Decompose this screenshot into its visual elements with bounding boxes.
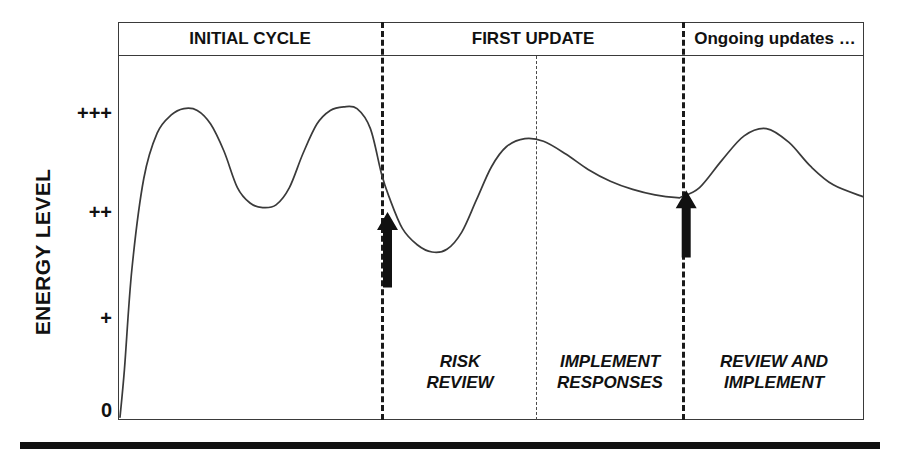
divider-initial-first	[381, 22, 384, 420]
header-band-separator	[118, 55, 864, 56]
y-axis-tick-labels: ++++++0	[0, 0, 112, 459]
subphase-label-risk-review: RISKREVIEW	[386, 352, 534, 393]
subphase-label-implement-responses: IMPLEMENTRESPONSES	[540, 352, 680, 393]
phase-label-ongoing-updates: Ongoing updates …	[688, 24, 862, 54]
bottom-rule	[20, 442, 880, 449]
y-tick-label: ++	[89, 202, 112, 222]
divider-risk-implement	[536, 56, 537, 420]
divider-first-ongoing	[682, 22, 685, 420]
subphase-label-review-implement: REVIEW ANDIMPLEMENT	[688, 352, 860, 393]
y-tick-label: +	[100, 308, 112, 328]
phase-label-initial-cycle: INITIAL CYCLE	[120, 24, 380, 54]
energy-level-chart: ENERGY LEVEL ++++++0 INITIAL CYCLEFIRST …	[0, 0, 899, 459]
phase-label-first-update: FIRST UPDATE	[386, 24, 680, 54]
y-tick-label: +++	[77, 103, 112, 123]
y-tick-label: 0	[101, 400, 112, 420]
